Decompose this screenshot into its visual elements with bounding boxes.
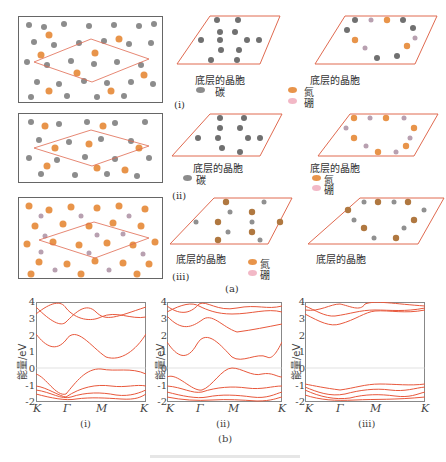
carbon-legend-marker xyxy=(183,175,192,181)
nitrogen-legend-marker xyxy=(312,175,321,181)
unit-cell-pair-iii xyxy=(168,196,446,248)
carbon-legend-marker xyxy=(196,87,205,93)
structure-view-i xyxy=(18,16,163,103)
unit-cell-pair-i xyxy=(175,14,440,70)
figure-caption xyxy=(150,455,300,458)
nitrogen-legend-marker xyxy=(248,259,257,265)
boron-legend-marker xyxy=(288,98,297,104)
structure-view-iii xyxy=(18,197,163,279)
atom-lattice-graphic xyxy=(19,17,162,102)
nitrogen-legend-marker xyxy=(288,87,297,93)
legend-label-boron: 硼 xyxy=(304,95,314,110)
cell-label-left: 底层的晶胞 xyxy=(176,251,226,266)
atom-lattice-graphic xyxy=(19,198,162,278)
legend-label-carbon: 碳 xyxy=(196,172,206,187)
band-structure-plot-ii xyxy=(167,302,282,402)
cell-label-right: 底层的晶胞 xyxy=(316,251,366,266)
boron-legend-marker xyxy=(248,270,257,276)
cell-label-right: 底层的晶胞 xyxy=(310,72,360,87)
plot-title-ii: (ii) xyxy=(216,418,230,429)
band-structure-plot-iii xyxy=(305,302,425,402)
atom-lattice-graphic xyxy=(19,114,162,182)
boron-legend-marker xyxy=(312,185,321,191)
row-label-i: (i) xyxy=(174,99,185,110)
unit-cell-pair-ii xyxy=(170,112,440,160)
structure-view-ii xyxy=(18,113,163,183)
cell-label-right: 底层的晶胞 xyxy=(310,160,360,175)
legend-label-boron: 硼 xyxy=(260,267,270,282)
part-b-label: (b) xyxy=(218,433,232,444)
row-label-iii: (iii) xyxy=(172,271,189,282)
band-structure-plot-i xyxy=(36,302,146,402)
legend-label-carbon: 碳 xyxy=(215,84,225,99)
legend-label-boron: 硼 xyxy=(324,182,334,197)
plot-title-iii: (iii) xyxy=(358,418,375,429)
plot-title-i: (i) xyxy=(80,418,91,429)
part-a-label: (a) xyxy=(225,283,239,294)
